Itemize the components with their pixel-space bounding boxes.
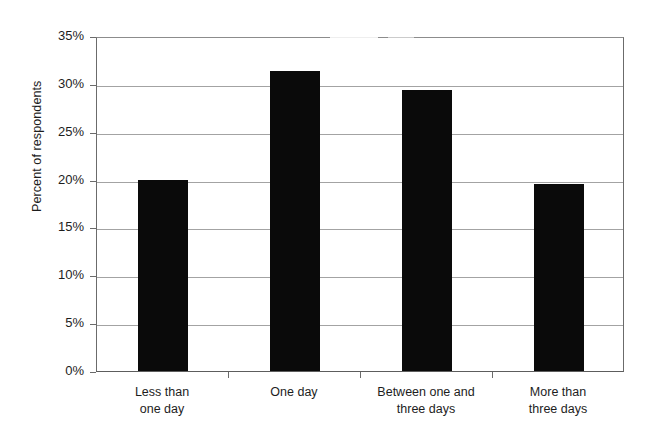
y-tick-label: 0% — [65, 363, 84, 378]
y-tick-mark — [90, 372, 96, 373]
x-axis-category-line: three days — [360, 401, 492, 418]
x-axis-category-line: Less than — [96, 384, 228, 401]
x-axis-category-line: More than — [492, 384, 624, 401]
bar — [138, 180, 188, 371]
y-tick-label: 20% — [58, 172, 84, 187]
scan-artifact-secondary — [388, 36, 414, 39]
x-axis-category-label: Less thanone day — [96, 384, 228, 418]
x-tick-mark — [228, 372, 229, 378]
y-tick-label: 25% — [58, 124, 84, 139]
x-tick-mark — [360, 372, 361, 378]
scan-artifact — [330, 36, 378, 39]
y-tick-label: 10% — [58, 267, 84, 282]
x-axis-category-label: Between one andthree days — [360, 384, 492, 418]
plot-area — [96, 37, 624, 372]
gridline — [97, 86, 623, 87]
y-tick-label: 15% — [58, 219, 84, 234]
bar — [270, 71, 320, 371]
x-axis-category-line: three days — [492, 401, 624, 418]
bar — [534, 184, 584, 371]
x-axis-category-line: One day — [228, 384, 360, 401]
x-axis-category-line: one day — [96, 401, 228, 418]
y-axis-title-label: Percent of respondents — [30, 80, 44, 211]
x-axis-category-label: One day — [228, 384, 360, 401]
gridline — [97, 134, 623, 135]
x-axis-category-line: Between one and — [360, 384, 492, 401]
y-tick-label: 35% — [58, 28, 84, 43]
y-tick-label: 5% — [65, 315, 84, 330]
y-tick-label: 30% — [58, 76, 84, 91]
bar — [402, 90, 452, 371]
x-axis-category-label: More thanthree days — [492, 384, 624, 418]
bar-chart-figure: Percent of respondents 0%5%10%15%20%25%3… — [0, 0, 654, 441]
x-tick-mark — [492, 372, 493, 378]
